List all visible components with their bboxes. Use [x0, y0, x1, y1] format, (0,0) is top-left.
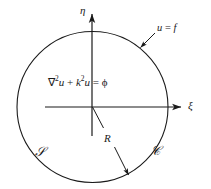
region-S-label: 𝒮	[35, 145, 45, 158]
boundary-condition-arrow	[141, 33, 156, 48]
plus-symbol: +	[64, 76, 76, 88]
xi-axis-label: ξ	[188, 100, 193, 111]
contour-C-label: 𝒞	[151, 144, 160, 157]
bc-f-symbol: f	[173, 22, 176, 33]
phi-symbol: ϕ	[102, 76, 108, 88]
diagram-vector-layer	[0, 0, 211, 189]
boundary-condition-label: u = f	[157, 23, 176, 34]
governing-equation: ∇2u + k2u = ϕ	[48, 77, 108, 88]
equals-symbol: =	[90, 76, 102, 88]
bc-equals-symbol: =	[162, 22, 173, 33]
radius-arrow	[115, 147, 129, 175]
radius-label: R	[104, 133, 111, 144]
nabla-symbol: ∇	[48, 76, 55, 88]
radius-line-segment	[93, 107, 104, 128]
figure-canvas: η ξ ∇2u + k2u = ϕ u = f R 𝒮 𝒞	[0, 0, 211, 189]
eta-axis-label: η	[80, 5, 85, 16]
